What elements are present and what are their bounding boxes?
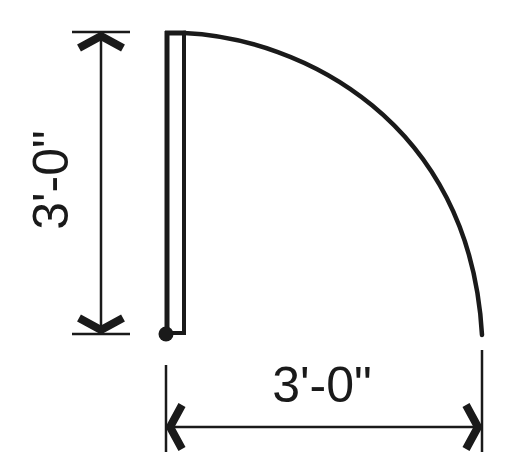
vertical-dimension-label: 3'-0" — [23, 130, 79, 230]
vertical-dimension-line — [72, 32, 130, 334]
door-panel — [165, 31, 186, 334]
hinge-pivot-icon — [159, 327, 174, 342]
swing-arc — [184, 33, 482, 335]
door-swing-diagram: 3'-0" 3'-0" — [0, 0, 517, 476]
horizontal-dimension-label: 3'-0" — [272, 357, 372, 413]
